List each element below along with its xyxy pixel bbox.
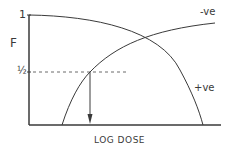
diagram-canvas xyxy=(0,0,227,149)
positive-curve-label: +ve xyxy=(194,83,214,93)
negative-curve xyxy=(62,23,215,125)
arrow-down-icon xyxy=(88,114,93,124)
negative-curve-label: -ve xyxy=(200,7,215,17)
x-axis-label: LOG DOSE xyxy=(94,136,145,145)
y-tick-label-half: ½ xyxy=(17,66,27,76)
y-tick-label-one: 1 xyxy=(19,9,26,20)
y-axis-label: F xyxy=(10,37,17,49)
positive-curve xyxy=(29,15,203,125)
